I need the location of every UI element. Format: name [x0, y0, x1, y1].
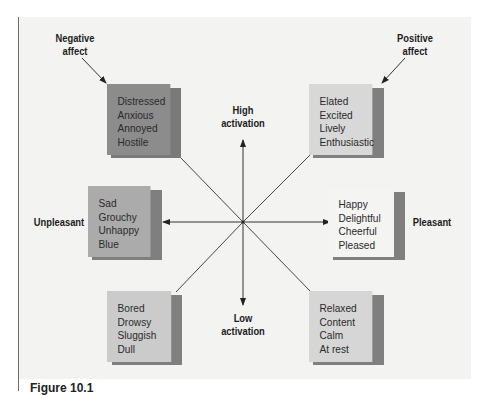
emotion-word: Happy: [339, 198, 394, 212]
box-high-unpleasant: Distressed Anxious Annoyed Hostile: [107, 84, 170, 155]
emotion-word: Pleased: [339, 239, 394, 253]
emotion-word: Elated: [320, 95, 373, 109]
emotion-word: Bored: [118, 302, 172, 316]
box-low-pleasant: Relaxed Content Calm At rest: [309, 291, 372, 362]
low-activation-label: Low activation: [213, 312, 273, 338]
emotion-word: Grouchy: [99, 211, 151, 225]
emotion-word: Lively: [320, 122, 373, 136]
box-unpleasant: Sad Grouchy Unhappy Blue: [88, 186, 150, 257]
emotion-word: Content: [320, 316, 373, 330]
positive-affect-pointer: [382, 58, 405, 83]
emotion-word: Dull: [118, 343, 172, 357]
emotion-word: At rest: [320, 343, 373, 357]
unpleasant-label: Unpleasant: [33, 216, 86, 229]
box-high-pleasant: Elated Excited Lively Enthusiastic: [309, 84, 372, 155]
emotion-word: Cheerful: [339, 225, 394, 239]
emotion-word: Distressed: [118, 95, 171, 109]
diagonal-lower-left: [176, 222, 243, 292]
emotion-word: Sad: [99, 197, 151, 211]
emotion-word: Blue: [99, 238, 151, 252]
emotion-word: Anxious: [118, 109, 171, 123]
emotion-word: Excited: [320, 109, 373, 123]
emotion-word: Annoyed: [118, 122, 171, 136]
diagonal-lower-right: [243, 222, 311, 292]
positive-affect-label: Positive affect: [385, 32, 445, 58]
emotion-word: Enthusiastic: [320, 136, 373, 150]
figure-caption: Figure 10.1: [30, 381, 93, 395]
emotion-word: Drowsy: [118, 316, 172, 330]
emotion-word: Sluggish: [118, 329, 172, 343]
pleasant-label: Pleasant: [408, 216, 456, 229]
emotion-word: Relaxed: [320, 302, 373, 316]
negative-affect-pointer: [82, 58, 106, 83]
diagonal-upper-left: [180, 157, 243, 222]
emotion-word: Calm: [320, 329, 373, 343]
negative-affect-label: Negative affect: [45, 32, 105, 58]
diagonal-upper-right: [243, 154, 311, 222]
high-activation-label: High activation: [213, 104, 273, 130]
emotion-word: Unhappy: [99, 224, 151, 238]
emotion-word: Hostile: [118, 136, 171, 150]
box-pleasant: Happy Delightful Cheerful Pleased: [328, 189, 394, 257]
emotion-word: Delightful: [339, 212, 394, 226]
box-low-unpleasant: Bored Drowsy Sluggish Dull: [107, 291, 171, 362]
